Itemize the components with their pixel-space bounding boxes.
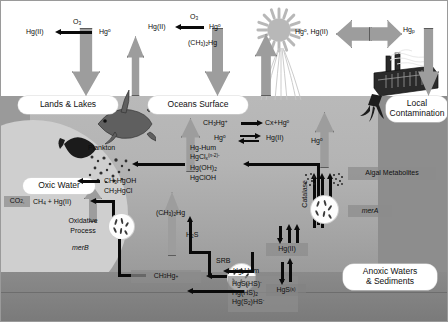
- mercury-cycle-diagram: Lands & Lakes Oceans Surface Local Conta…: [0, 0, 448, 322]
- diagram-border: [0, 0, 448, 322]
